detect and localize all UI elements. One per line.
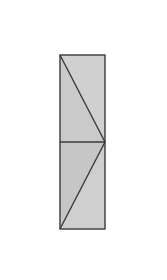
rectangle-figure (60, 55, 105, 229)
geometric-diagram (0, 0, 167, 280)
